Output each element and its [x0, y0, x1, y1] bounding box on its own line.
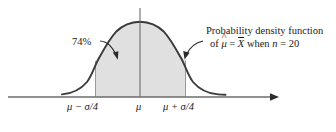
note-when-text: when	[244, 38, 272, 49]
x-axis-arrowhead	[270, 93, 279, 101]
x-bar-symbol: X	[238, 38, 244, 50]
note-callout-arrow	[187, 41, 204, 55]
note-callout-arrowhead	[183, 51, 189, 60]
note-equals-sign: =	[227, 38, 238, 49]
percent-label: 74%	[72, 36, 91, 48]
figure-container: 74% Probability density function of μ = …	[0, 0, 336, 132]
tick-label-mu-minus-sigma: μ − σ/4	[67, 101, 98, 113]
note-n-equals-sign: =	[278, 38, 289, 49]
mu-hat-symbol: μ	[221, 38, 226, 50]
note-of-text: of	[210, 38, 221, 49]
note-line-2: of μ = X when n = 20	[210, 38, 299, 50]
tick-label-mu: μ	[136, 101, 141, 113]
tick-label-mu-plus-sigma: μ + σ/4	[163, 101, 194, 113]
sample-size-value: 20	[289, 38, 300, 49]
